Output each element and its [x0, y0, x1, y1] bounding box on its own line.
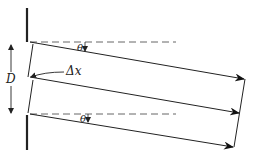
delta-x-label: Δx: [65, 64, 82, 78]
ray-middle: [30, 77, 239, 113]
wavefront-line: [234, 79, 245, 147]
angle-label-bottom: θ: [80, 113, 86, 124]
perpendicular-line-lower: [28, 80, 33, 113]
delta-x-pointer: [31, 72, 64, 77]
ray-top: [30, 42, 244, 79]
double-slit-diagram: Δx θ θ D: [0, 0, 253, 159]
angle-label-top: θ: [77, 42, 83, 53]
ray-bottom: [30, 114, 233, 147]
perpendicular-line-upper: [28, 44, 33, 77]
separation-label: D: [5, 72, 16, 86]
